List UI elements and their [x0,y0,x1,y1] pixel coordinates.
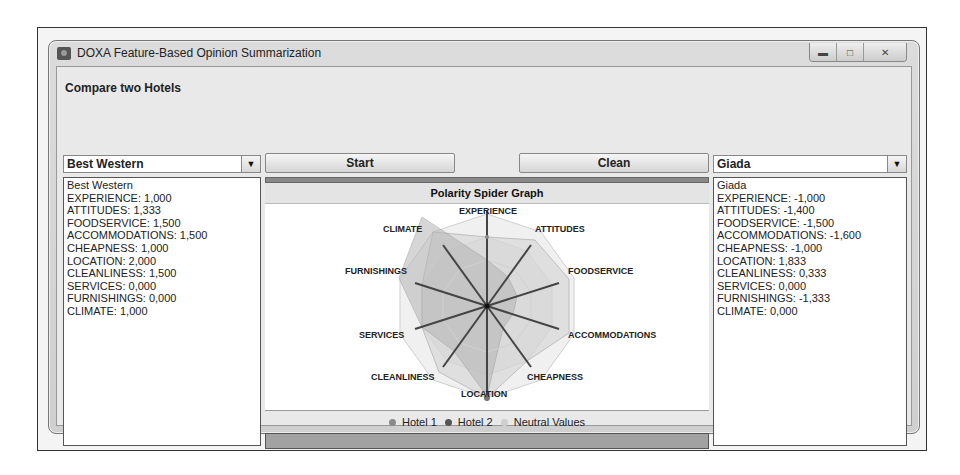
list-item: ACCOMMODATIONS: 1,500 [67,229,257,242]
axis-label-services: SERVICES [359,330,404,340]
list-item: FOODSERVICE: -1,500 [717,217,903,230]
list-item: FURNISHINGS: -1,333 [717,292,903,305]
title-bar: DOXA Feature-Based Opinion Summarization… [49,41,919,65]
clean-button[interactable]: Clean [519,153,709,173]
axis-label-cleanliness: CLEANLINESS [371,372,435,382]
list-item: FOODSERVICE: 1,500 [67,217,257,230]
list-item: FURNISHINGS: 0,000 [67,292,257,305]
list-item: ATTITUDES: 1,333 [67,204,257,217]
list-item: ACCOMMODATIONS: -1,600 [717,229,903,242]
axis-label-furnishings: FURNISHINGS [345,266,407,276]
chevron-down-icon[interactable]: ▼ [887,156,906,172]
list-item: CHEAPNESS: -1,000 [717,242,903,255]
list-item: LOCATION: 1,833 [717,255,903,268]
close-button[interactable]: ✕ [863,43,906,61]
list-item: ATTITUDES: -1,400 [717,204,903,217]
list-item: LOCATION: 2,000 [67,255,257,268]
axis-label-experience: EXPERIENCE [459,206,517,216]
axis-label-location: LOCATION [461,389,507,399]
axis-label-accommodations: ACCOMMODATIONS [568,330,656,340]
chart-legend: Hotel 1 Hotel 2 Neutral Values [265,410,709,433]
axis-label-climate: CLIMATE [383,224,422,234]
app-window: DOXA Feature-Based Opinion Summarization… [48,40,920,434]
hotel2-select[interactable]: Giada ▼ [713,155,907,173]
window-controls: ▬ □ ✕ [809,43,907,62]
list-item: CLIMATE: 0,000 [717,305,903,318]
axis-label-cheapness: CHEAPNESS [527,372,583,382]
maximize-icon: □ [847,47,853,58]
list-item: CLIMATE: 1,000 [67,305,257,318]
close-icon: ✕ [881,47,889,58]
list-item: CLEANLINESS: 1,500 [67,267,257,280]
spider-chart: EXPERIENCE ATTITUDES FOODSERVICE ACCOMMO… [265,204,709,410]
progress-bar [265,433,709,449]
hotel1-select-value: Best Western [67,157,143,171]
neutral-legend-icon [501,419,508,426]
chevron-down-icon[interactable]: ▼ [241,156,260,172]
chart-title: Polarity Spider Graph [265,183,709,204]
list-item: Giada [717,179,903,192]
hotel1-legend-icon [389,419,396,426]
legend-hotel1: Hotel 1 [402,416,437,428]
list-item: CHEAPNESS: 1,000 [67,242,257,255]
start-button[interactable]: Start [265,153,455,173]
page-title: Compare two Hotels [65,81,181,95]
spider-chart-svg [265,204,709,410]
list-item: SERVICES: 0,000 [717,280,903,293]
spider-graph-panel: Polarity Spider Graph [265,177,709,448]
legend-neutral: Neutral Values [514,416,585,428]
hotel2-results-list[interactable]: Giada EXPERIENCE: -1,000 ATTITUDES: -1,4… [713,177,907,446]
list-item: EXPERIENCE: -1,000 [717,192,903,205]
hotel2-select-value: Giada [717,157,750,171]
list-item: EXPERIENCE: 1,000 [67,192,257,205]
minimize-button[interactable]: ▬ [810,43,836,61]
list-item: Best Western [67,179,257,192]
axis-label-foodservice: FOODSERVICE [568,266,633,276]
axis-label-attitudes: ATTITUDES [535,224,585,234]
hotel2-legend-icon [445,419,452,426]
hotel1-results-list[interactable]: Best Western EXPERIENCE: 1,000 ATTITUDES… [63,177,261,446]
maximize-button[interactable]: □ [836,43,863,61]
client-area: Compare two Hotels Best Western ▼ Start … [56,66,912,426]
minimize-icon: ▬ [818,47,828,58]
window-title: DOXA Feature-Based Opinion Summarization [77,46,321,60]
legend-hotel2: Hotel 2 [458,416,493,428]
app-icon [57,47,71,60]
hotel1-select[interactable]: Best Western ▼ [63,155,261,173]
list-item: CLEANLINESS: 0,333 [717,267,903,280]
list-item: SERVICES: 0,000 [67,280,257,293]
